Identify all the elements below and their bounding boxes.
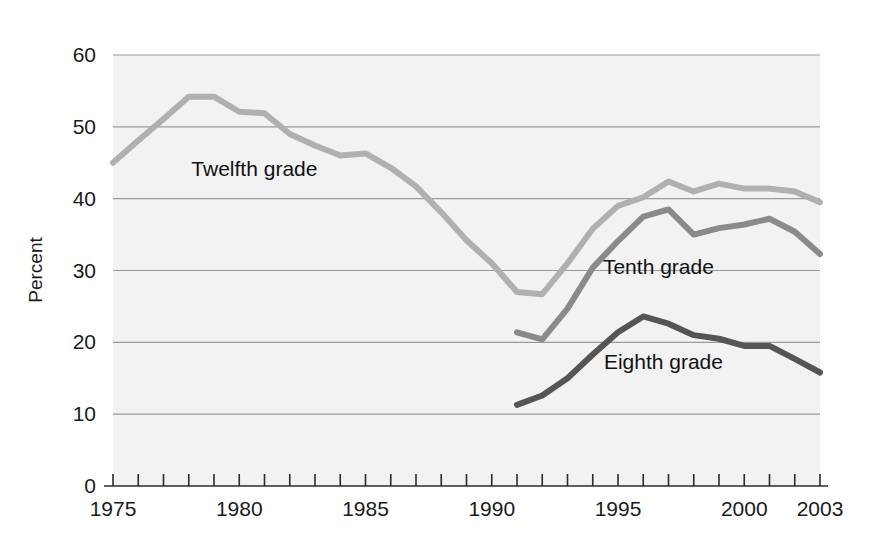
x-tick-label-1990: 1990: [468, 497, 515, 520]
x-tick-label-2003: 2003: [797, 497, 844, 520]
y-axis-tick-labels: 0102030405060: [73, 43, 96, 497]
y-tick-label-0: 0: [84, 474, 96, 497]
x-tick-label-2000: 2000: [721, 497, 768, 520]
y-tick-label-30: 30: [73, 259, 96, 282]
y-tick-label-40: 40: [73, 187, 96, 210]
series-label-tenth-grade: Tenth grade: [603, 255, 714, 278]
y-tick-label-20: 20: [73, 330, 96, 353]
y-tick-label-10: 10: [73, 402, 96, 425]
x-axis-tick-labels: 1975198019851990199520002003: [90, 497, 844, 520]
line-chart: 0102030405060 19751980198519901995200020…: [0, 0, 872, 550]
y-tick-label-60: 60: [73, 43, 96, 66]
x-tick-label-1985: 1985: [342, 497, 389, 520]
series-label-eighth-grade: Eighth grade: [604, 350, 723, 373]
x-tick-label-1980: 1980: [216, 497, 263, 520]
x-tick-label-1975: 1975: [90, 497, 137, 520]
series-label-twelfth-grade: Twelfth grade: [191, 157, 317, 180]
y-axis-title: Percent: [25, 237, 46, 303]
x-tick-label-1995: 1995: [595, 497, 642, 520]
chart-figure: 0102030405060 19751980198519901995200020…: [0, 0, 872, 550]
y-tick-label-50: 50: [73, 115, 96, 138]
